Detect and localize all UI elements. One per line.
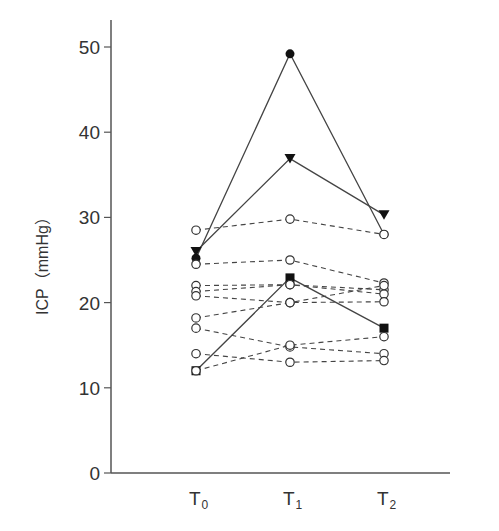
patient-open-6-point-t0 — [192, 314, 200, 322]
y-axis-label: ICP（mmHg） — [34, 209, 51, 315]
y-tick-label: 50 — [79, 37, 100, 58]
patient-open-8-point-t0 — [192, 350, 200, 358]
patient-open-6-point-t1 — [286, 298, 294, 306]
patient-filled-triangle-point-t2 — [379, 210, 390, 220]
axes: 01020304050T0T1T2 — [79, 20, 450, 512]
series-lines — [196, 54, 384, 371]
patient-open-5-point-t0 — [192, 292, 200, 300]
patient-open-2-point-t0 — [192, 260, 200, 268]
x-tick-label-t1: T1 — [283, 488, 303, 512]
patient-filled-square-point-t2 — [380, 324, 389, 333]
y-tick-label: 10 — [79, 378, 100, 399]
x-tick-label-t2: T2 — [377, 488, 397, 512]
patient-open-8-point-t2 — [380, 356, 388, 364]
patient-open-7-point-t0 — [192, 324, 200, 332]
patient-open-8-point-t1 — [286, 358, 294, 366]
y-tick-label: 20 — [79, 293, 100, 314]
series-markers — [191, 49, 390, 375]
patient-open-6-point-t2 — [380, 298, 388, 306]
patient-open-4-point-t1 — [286, 281, 294, 289]
patient-open-9-point-t1 — [286, 341, 294, 349]
patient-open-5-point-t2 — [380, 281, 388, 289]
y-tick-label: 40 — [79, 122, 100, 143]
x-tick-label-t0: T0 — [189, 488, 209, 512]
patient-open-1-point-t2 — [380, 230, 388, 238]
patient-open-9-point-t2 — [380, 332, 388, 340]
patient-filled-triangle-point-t0 — [191, 247, 202, 257]
patient-open-2-point-t1 — [286, 256, 294, 264]
patient-filled-square-line — [196, 278, 384, 371]
icp-line-chart: 01020304050T0T1T2 ICP（mmHg） — [0, 0, 499, 531]
patient-filled-circle-point-t1 — [286, 49, 295, 58]
patient-open-1-point-t0 — [192, 226, 200, 234]
y-tick-label: 0 — [89, 463, 100, 484]
y-tick-label: 30 — [79, 207, 100, 228]
patient-open-9-point-t0 — [192, 367, 200, 375]
patient-filled-triangle-line — [196, 159, 384, 252]
patient-open-1-point-t1 — [286, 215, 294, 223]
